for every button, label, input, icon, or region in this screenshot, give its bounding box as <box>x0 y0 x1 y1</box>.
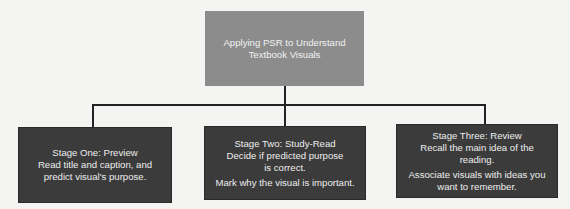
connector-stage-one <box>92 104 94 127</box>
root-title-line1: Applying PSR to Understand <box>223 37 345 49</box>
stage-title: Stage One: Preview <box>52 147 137 159</box>
connector-horizontal <box>92 104 486 106</box>
connector-stage-three <box>484 104 486 124</box>
stage-text: Recall the main idea of the reading. <box>402 142 552 166</box>
connector-root-down <box>284 86 286 106</box>
stage-text: Associate visuals with ideas you want to… <box>402 169 552 193</box>
root-node: Applying PSR to Understand Textbook Visu… <box>205 11 364 86</box>
root-title-line2: Textbook Visuals <box>249 49 321 61</box>
stage-two-node: Stage Two: Study-Read Decide if predicte… <box>204 126 366 200</box>
stage-title: Stage Two: Study-Read <box>234 138 335 150</box>
stage-text: Decide if predicted purpose is correct. <box>210 150 360 174</box>
stage-text: Mark why the visual is important. <box>215 177 354 189</box>
stage-title: Stage Three: Review <box>432 130 521 142</box>
stage-three-node: Stage Three: Review Recall the main idea… <box>396 124 558 198</box>
connector-stage-two <box>284 104 286 126</box>
stage-text: Read title and caption, and predict visu… <box>24 159 166 183</box>
stage-one-node: Stage One: Preview Read title and captio… <box>18 127 172 203</box>
